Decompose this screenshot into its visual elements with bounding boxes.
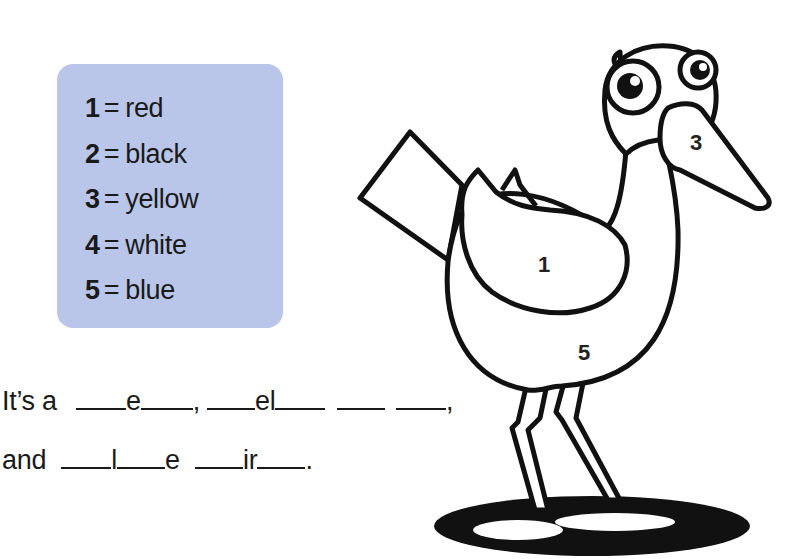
body-number-label: 5 [578,340,590,366]
period: . [305,445,312,475]
sentence-prefix: It’s a [2,386,57,416]
key-color: yellow [125,184,198,214]
wing-number-label: 1 [538,252,550,278]
blank[interactable] [61,445,111,469]
key-number: 5 [85,275,100,305]
key-equals: = [104,275,119,305]
key-item-3: 3=yellow [85,177,198,223]
key-equals: = [104,93,119,123]
key-color: red [125,93,163,123]
blank[interactable] [141,386,193,410]
bird-drawing [350,30,802,559]
key-item-2: 2=black [85,132,198,178]
given-letter: ir [243,445,257,475]
blank[interactable] [275,386,325,410]
sentence-line-2: and le ir. [2,445,313,476]
key-item-5: 5=blue [85,268,198,314]
given-letter: e [165,445,180,475]
key-equals: = [104,139,119,169]
beak-number-label: 3 [690,130,702,156]
bird-illustration: 1 3 5 [350,30,802,559]
comma: , [193,386,200,416]
given-letter: e [126,386,141,416]
blank[interactable] [257,445,305,469]
key-number: 4 [85,230,100,260]
key-number: 1 [85,93,100,123]
key-color: black [125,139,187,169]
color-key-list: 1=red 2=black 3=yellow 4=white 5=blue [85,86,198,314]
blank[interactable] [195,445,243,469]
color-key-box: 1=red 2=black 3=yellow 4=white 5=blue [57,64,283,328]
key-item-4: 4=white [85,223,198,269]
key-item-1: 1=red [85,86,198,132]
key-number: 2 [85,139,100,169]
key-number: 3 [85,184,100,214]
blank[interactable] [76,386,126,410]
given-letter: el [255,386,275,416]
key-color: white [125,230,187,260]
key-equals: = [104,230,119,260]
key-equals: = [104,184,119,214]
blank[interactable] [207,386,255,410]
key-color: blue [125,275,175,305]
tail [360,132,462,260]
sentence-prefix: and [2,445,46,475]
blank[interactable] [117,445,165,469]
